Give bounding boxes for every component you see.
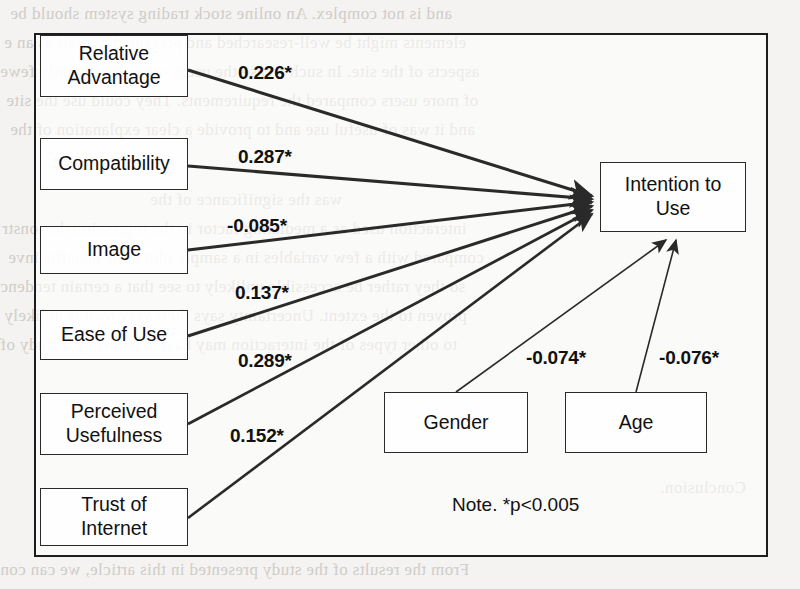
node-label-line1: Image: [83, 238, 145, 262]
node-label-line1: Perceived: [62, 400, 166, 424]
node-label-line2: Internet: [77, 517, 151, 541]
path-label-ease-of-use: 0.137*: [235, 282, 289, 304]
node-compatibility[interactable]: Compatibility: [40, 138, 188, 190]
node-intention-to-use[interactable]: Intention to Use: [600, 162, 746, 232]
node-label-line1: Gender: [419, 411, 492, 435]
diagram-frame: [34, 33, 768, 557]
node-ease-of-use[interactable]: Ease of Use: [40, 310, 188, 360]
bleed-text-line: and is not complex. An online stock trad…: [10, 4, 452, 24]
bleed-text-line: From the results of the study presented …: [0, 560, 469, 580]
path-label-image: -0.085*: [227, 215, 287, 237]
node-image[interactable]: Image: [40, 226, 188, 274]
node-label-line2: Usefulness: [62, 424, 166, 448]
node-label-line1: Ease of Use: [57, 323, 171, 347]
node-gender[interactable]: Gender: [384, 392, 528, 453]
node-label-line2: Advantage: [63, 66, 164, 90]
node-perceived-usefulness[interactable]: Perceived Usefulness: [40, 393, 188, 455]
path-label-gender: -0.074*: [526, 347, 586, 369]
node-trust-of-internet[interactable]: Trust of Internet: [40, 488, 188, 546]
significance-note: Note. *p<0.005: [452, 494, 579, 516]
node-label-line1: Relative: [63, 42, 164, 66]
node-label-line2: Use: [621, 197, 726, 221]
node-relative-advantage[interactable]: Relative Advantage: [40, 35, 188, 97]
node-label-line1: Trust of: [77, 493, 151, 517]
path-label-compatibility: 0.287*: [238, 146, 292, 168]
path-label-age: -0.076*: [659, 347, 719, 369]
node-label-line1: Compatibility: [54, 152, 174, 176]
path-label-perceived-usefulness: 0.289*: [238, 350, 292, 372]
node-label-line1: Intention to: [621, 173, 726, 197]
node-age[interactable]: Age: [565, 392, 707, 453]
node-label-line1: Age: [615, 411, 658, 435]
path-label-relative-advantage: 0.226*: [238, 62, 292, 84]
path-label-trust-of-internet: 0.152*: [230, 425, 284, 447]
